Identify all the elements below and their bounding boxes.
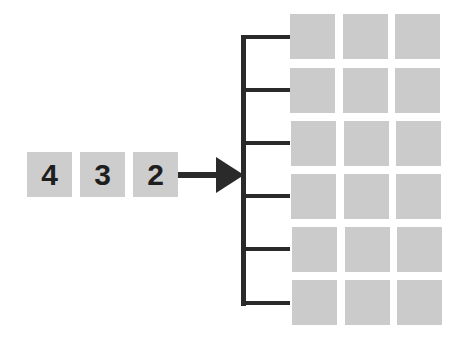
bracket-branch bbox=[241, 88, 290, 92]
grid-cell bbox=[397, 280, 442, 325]
grid-cell bbox=[395, 14, 440, 59]
grid-cell bbox=[396, 121, 441, 166]
input-value: 4 bbox=[41, 158, 58, 192]
grid-cell bbox=[345, 280, 390, 325]
bracket-spine bbox=[241, 35, 246, 306]
input-box: 2 bbox=[133, 152, 178, 197]
grid-cell bbox=[397, 227, 442, 272]
grid-cell bbox=[343, 68, 388, 113]
bracket-branch bbox=[241, 194, 290, 198]
grid-cell bbox=[290, 14, 335, 59]
bracket-branch bbox=[241, 35, 290, 39]
grid-cell bbox=[344, 174, 389, 219]
grid-cell bbox=[345, 227, 390, 272]
input-box: 4 bbox=[27, 152, 72, 197]
arrow-head-icon bbox=[216, 157, 244, 193]
grid-cell bbox=[290, 68, 335, 113]
grid-cell bbox=[292, 227, 337, 272]
input-box: 3 bbox=[80, 152, 125, 197]
input-value: 2 bbox=[147, 158, 164, 192]
grid-cell bbox=[291, 121, 336, 166]
grid-cell bbox=[396, 174, 441, 219]
grid-cell bbox=[344, 121, 389, 166]
grid-cell bbox=[343, 14, 388, 59]
grid-cell bbox=[291, 174, 336, 219]
bracket-branch bbox=[241, 247, 290, 251]
grid-cell bbox=[292, 280, 337, 325]
grid-cell bbox=[395, 68, 440, 113]
arrow-shaft bbox=[178, 172, 220, 178]
input-value: 3 bbox=[94, 158, 111, 192]
bracket-branch bbox=[241, 141, 290, 145]
bracket-branch bbox=[241, 301, 290, 305]
